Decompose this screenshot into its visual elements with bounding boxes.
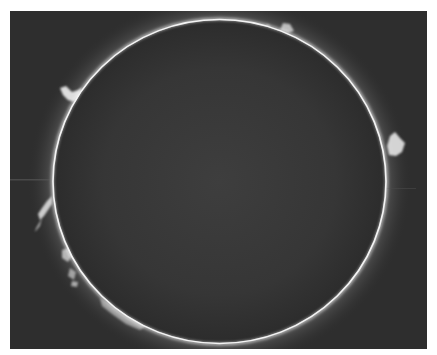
sun-image xyxy=(10,11,427,349)
scan-artifact xyxy=(10,179,55,181)
solar-disk xyxy=(54,20,386,343)
solar-photo xyxy=(10,11,427,349)
